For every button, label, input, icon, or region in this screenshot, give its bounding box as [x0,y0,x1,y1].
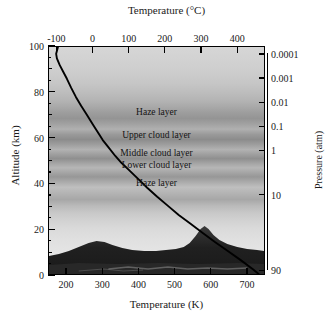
x-tick-label-bottom: 600 [191,279,231,290]
x-tick-label-top: 400 [217,33,257,44]
y-tick-minor [48,80,51,81]
y-tick-minor [48,206,52,207]
x-tick-label-top: 200 [145,33,185,44]
y2-tick-label: 0.01 [271,97,317,108]
y-tick-major [48,183,55,184]
plot-area: Haze layer Upper cloud layer Middle clou… [48,46,265,275]
y2-tick-label: 10 [271,190,317,201]
y-tick-major [48,91,55,92]
x-tick-top [164,46,165,53]
y-tick-minor [48,240,51,241]
y-tick-label: 100 [14,41,44,52]
y-tick-label: 80 [14,87,44,98]
bottom-axis-title: Temperature (K) [0,299,333,310]
y-tick-label: 40 [14,178,44,189]
x-tick-bottom [65,268,66,275]
y2-tick [259,150,265,151]
atmosphere-profile-figure: Temperature (°C) Temperature (K) Altitud… [0,0,333,316]
y-tick-label: 20 [14,224,44,235]
x-tick-label-bottom: 700 [227,279,267,290]
y-tick-label: 0 [14,270,44,281]
x-tick-bottom [174,268,175,275]
x-tick-label-bottom: 500 [155,279,195,290]
y-tick-minor [48,217,51,218]
y2-tick [259,102,265,103]
x-tick-label-top: 100 [109,33,149,44]
y2-tick-label: 0.1 [271,121,317,132]
x-tick-top [200,46,201,53]
y2-tick [259,77,265,78]
x-tick-top [56,46,57,53]
y2-tick [259,194,265,195]
x-tick-label-bottom: 400 [118,279,158,290]
y2-tick-label: 0.001 [271,73,317,84]
x-tick-top [92,46,93,53]
y2-tick [259,270,265,271]
y-tick-major [48,137,55,138]
y-tick-minor [48,149,51,150]
y-tick-minor [48,263,51,264]
y2-tick [259,53,265,54]
x-tick-bottom [246,268,247,275]
x-tick-bottom [138,268,139,275]
y2-tick-label: 1 [271,145,317,156]
y-tick-minor [48,160,52,161]
y2-tick [259,126,265,127]
right-axis-spine [267,53,268,269]
y-tick-minor [48,126,51,127]
x-tick-top [237,46,238,53]
y-tick-minor [48,114,52,115]
x-tick-label-bottom: 300 [82,279,122,290]
y-tick-label: 60 [14,133,44,144]
y-tick-minor [48,57,51,58]
x-tick-bottom [102,268,103,275]
y-tick-minor [48,171,51,172]
y-tick-major [48,274,55,275]
x-tick-label-top: 300 [181,33,221,44]
x-tick-bottom [210,268,211,275]
x-tick-label-top: 0 [73,33,113,44]
y-tick-major [48,45,55,46]
y-tick-minor [48,68,52,69]
x-tick-label-bottom: 200 [46,279,86,290]
y2-tick-label: 90 [271,265,317,276]
top-axis-title: Temperature (°C) [0,5,333,16]
y-tick-minor [48,194,51,195]
y2-tick-label: 0.0001 [271,49,317,60]
y-tick-minor [48,103,51,104]
temperature-profile-curve [49,47,264,274]
y-tick-major [48,229,55,230]
x-tick-top [128,46,129,53]
y-tick-minor [48,252,52,253]
